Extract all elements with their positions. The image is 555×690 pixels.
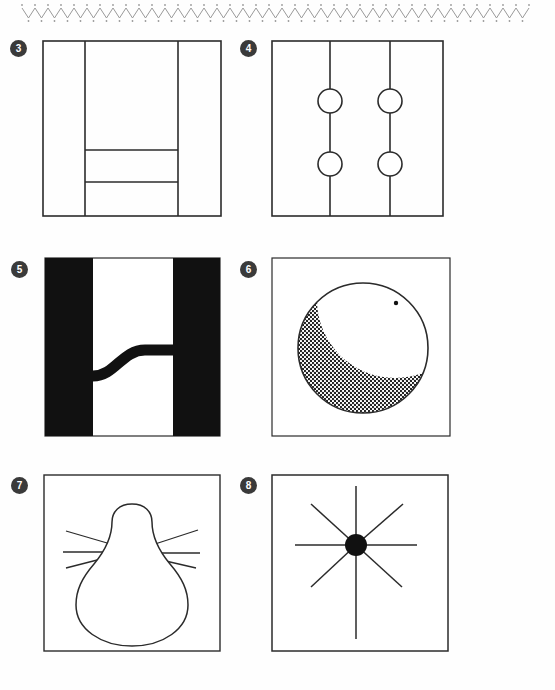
panel-number-badge-6: 6 xyxy=(240,261,257,278)
border-dot xyxy=(528,4,530,6)
panel-8: 8 xyxy=(232,466,477,662)
border-dot xyxy=(450,4,452,6)
border-dot xyxy=(60,4,62,6)
border-dot xyxy=(463,4,465,6)
border-dot xyxy=(431,20,433,22)
border-dot xyxy=(268,4,270,6)
panel-7: 7 xyxy=(0,466,245,662)
border-dot xyxy=(509,20,511,22)
border-dot xyxy=(489,4,491,6)
border-dot xyxy=(80,20,82,22)
border-dot xyxy=(346,4,348,6)
border-dot xyxy=(28,20,30,22)
border-dot xyxy=(255,4,257,6)
zigzag-dot-border-icon xyxy=(0,0,555,26)
border-dot xyxy=(470,20,472,22)
border-dot xyxy=(41,20,43,22)
border-dot xyxy=(249,20,251,22)
border-dot xyxy=(418,20,420,22)
border-dot xyxy=(405,20,407,22)
border-dot xyxy=(398,4,400,6)
panel-number-badge-8: 8 xyxy=(240,477,257,494)
border-dot xyxy=(132,20,134,22)
border-dot xyxy=(385,4,387,6)
border-dot xyxy=(99,4,101,6)
border-dot xyxy=(47,4,49,6)
border-dot xyxy=(314,20,316,22)
border-dot xyxy=(210,20,212,22)
border-dot xyxy=(54,20,56,22)
panel-number-badge-7: 7 xyxy=(11,477,28,494)
border-dot xyxy=(93,20,95,22)
border-dot xyxy=(515,4,517,6)
panel-5: 5 xyxy=(0,250,245,446)
border-dot xyxy=(229,4,231,6)
border-dot xyxy=(366,20,368,22)
border-dot xyxy=(294,4,296,6)
border-dot xyxy=(392,20,394,22)
border-dot xyxy=(138,4,140,6)
border-dot xyxy=(340,20,342,22)
border-dot xyxy=(119,20,121,22)
border-dot xyxy=(301,20,303,22)
border-dot xyxy=(333,4,335,6)
border-dot xyxy=(106,20,108,22)
border-dot xyxy=(262,20,264,22)
border-dot xyxy=(359,4,361,6)
border-dot xyxy=(197,20,199,22)
border-dot xyxy=(307,4,309,6)
border-dot xyxy=(177,4,179,6)
border-dot xyxy=(67,20,69,22)
black-bar-right xyxy=(173,258,220,436)
border-dot xyxy=(372,4,374,6)
figure-8-eight-spoke-star xyxy=(232,466,477,662)
border-dot xyxy=(158,20,160,22)
circle-bottom-left xyxy=(318,152,342,176)
figure-7-pear-with-whiskers xyxy=(0,466,245,662)
border-dot xyxy=(281,4,283,6)
border-dot xyxy=(151,4,153,6)
border-dot xyxy=(112,4,114,6)
border-dot xyxy=(522,20,524,22)
figure-6-stippled-circle xyxy=(232,250,477,446)
zigzag-path xyxy=(22,8,529,18)
panel-6: 6 xyxy=(232,250,477,446)
panel-4-frame xyxy=(272,41,443,216)
panel-3-frame xyxy=(43,41,221,216)
border-dot xyxy=(242,4,244,6)
border-dot xyxy=(223,20,225,22)
border-dot xyxy=(496,20,498,22)
figure-5-bars-and-curve xyxy=(0,250,245,446)
border-dot xyxy=(86,4,88,6)
border-dot xyxy=(457,20,459,22)
border-dot xyxy=(73,4,75,6)
border-dot xyxy=(437,4,439,6)
border-dot xyxy=(379,20,381,22)
border-dot xyxy=(411,4,413,6)
panel-8-frame xyxy=(272,475,448,651)
black-bar-left xyxy=(45,258,93,436)
border-dot xyxy=(502,4,504,6)
border-dot xyxy=(184,20,186,22)
border-dot xyxy=(320,4,322,6)
worksheet-page: 3 4 xyxy=(0,0,555,690)
border-dot xyxy=(476,4,478,6)
border-dot xyxy=(125,4,127,6)
border-dot xyxy=(275,20,277,22)
panel-3: 3 xyxy=(0,34,245,230)
border-dot xyxy=(353,20,355,22)
border-dot xyxy=(21,4,23,6)
border-dot xyxy=(164,4,166,6)
panel-4: 4 xyxy=(232,34,477,230)
border-dot xyxy=(216,4,218,6)
border-dot xyxy=(203,4,205,6)
black-hub-circle xyxy=(345,534,367,556)
border-dot xyxy=(327,20,329,22)
panel-number-badge-5: 5 xyxy=(11,261,28,278)
border-dot xyxy=(145,20,147,22)
border-dot xyxy=(236,20,238,22)
small-black-dot xyxy=(394,301,398,305)
border-dot xyxy=(444,20,446,22)
panel-number-badge-4: 4 xyxy=(240,40,257,57)
figure-4-lines-and-circles xyxy=(232,34,477,230)
